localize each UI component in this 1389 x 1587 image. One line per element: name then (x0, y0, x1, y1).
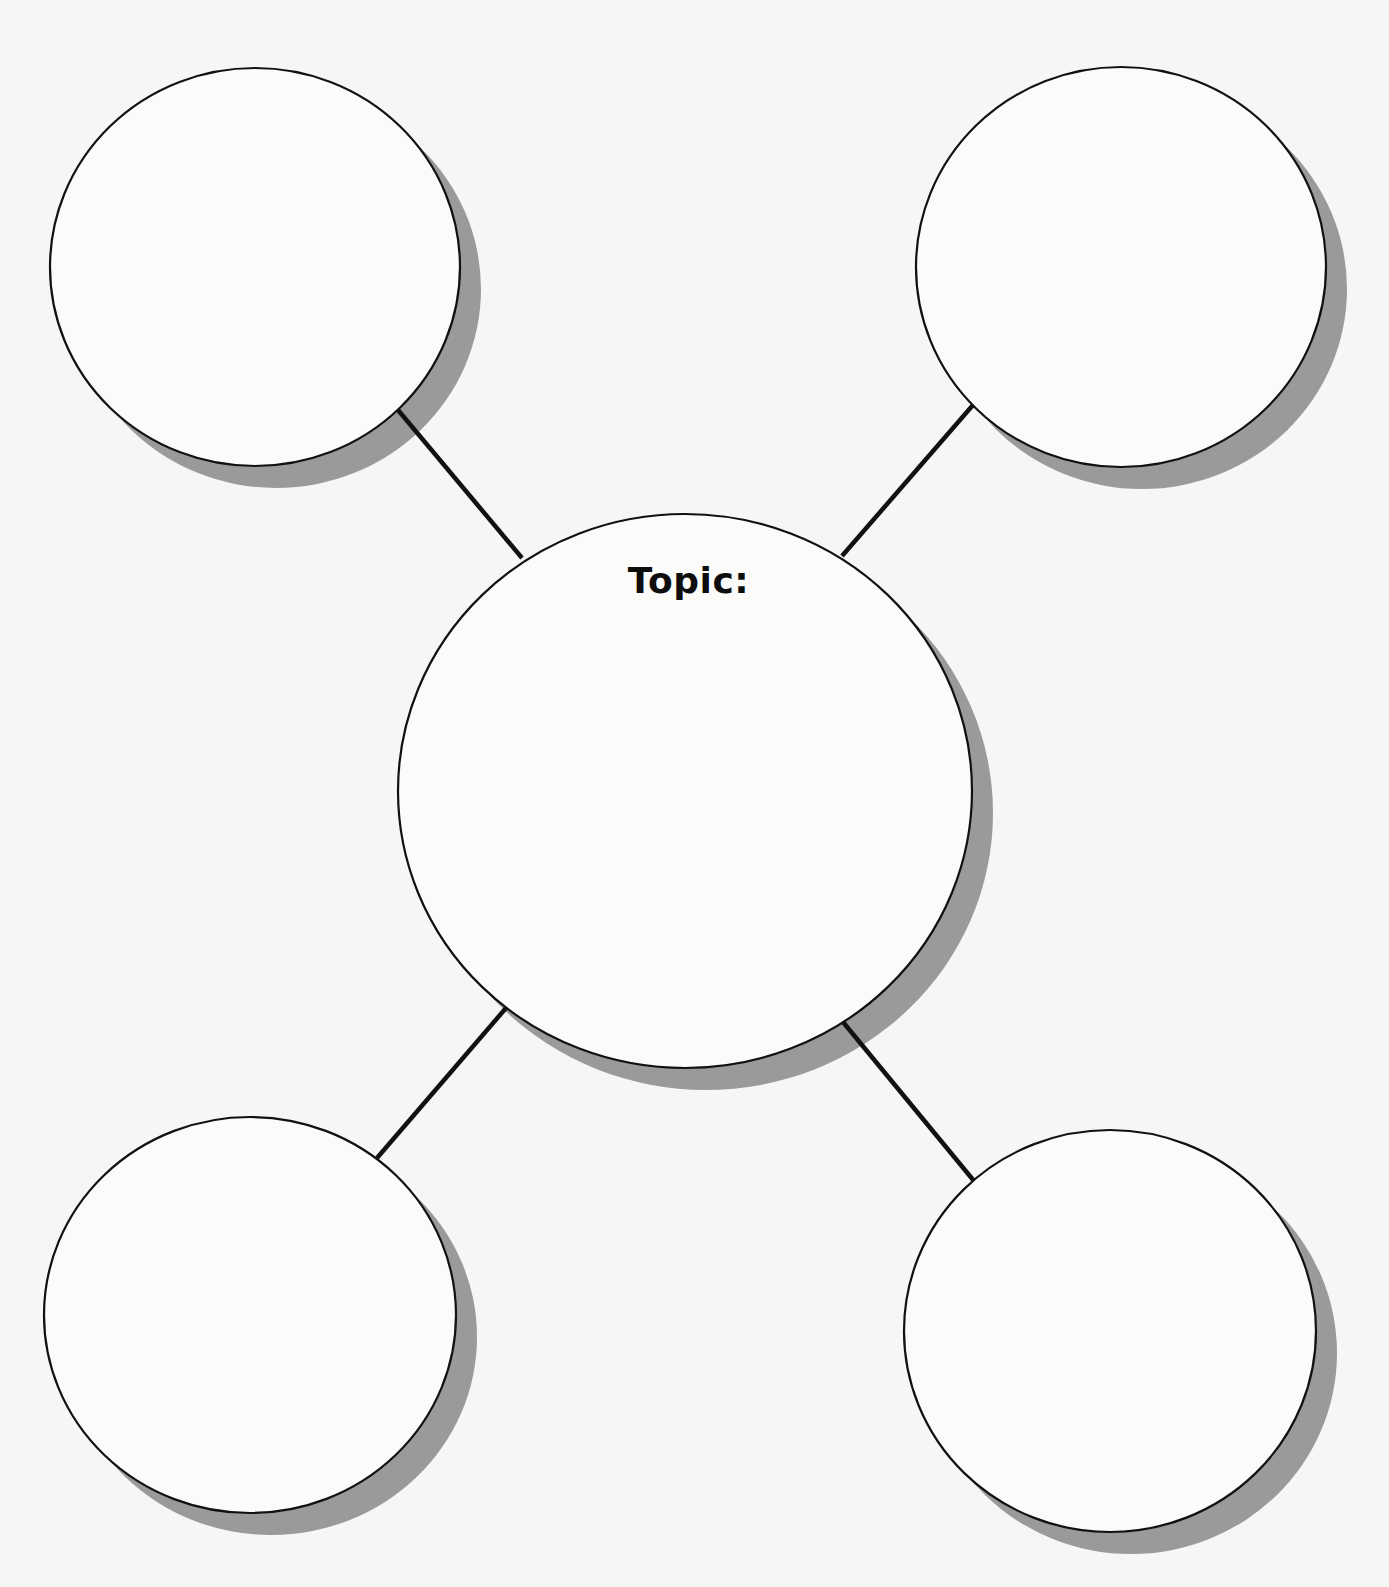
connector-line-to-top-right (842, 405, 973, 556)
circle-top-right[interactable] (916, 67, 1326, 467)
circle-top-left[interactable] (50, 68, 460, 466)
circle-bottom-right[interactable] (904, 1130, 1316, 1532)
circle-bottom-left[interactable] (44, 1117, 456, 1513)
connector-line-to-top-left (398, 410, 522, 558)
concept-web-diagram (0, 0, 1389, 1587)
circles (44, 67, 1326, 1532)
connector-line-to-bottom-right (843, 1022, 974, 1181)
circle-center-topic[interactable] (398, 514, 972, 1068)
connector-line-to-bottom-left (377, 1008, 506, 1158)
